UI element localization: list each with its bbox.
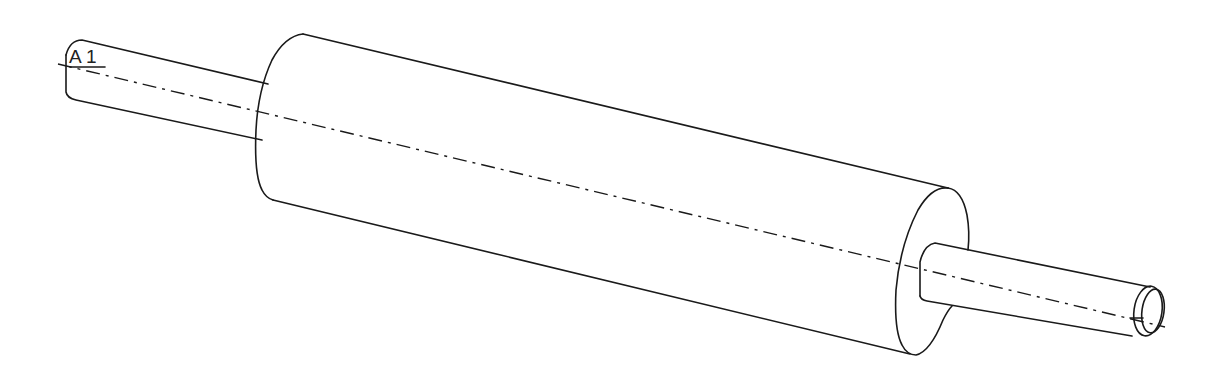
main-cylinder	[256, 34, 969, 355]
axis-label: A 1	[69, 46, 96, 67]
technical-drawing: A 1	[0, 0, 1222, 375]
right-shaft	[920, 243, 1167, 338]
center-axis	[58, 64, 1165, 327]
